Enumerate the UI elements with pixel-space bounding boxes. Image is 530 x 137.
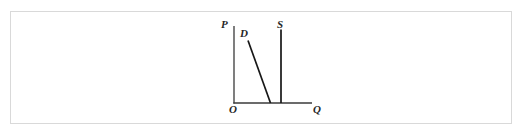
- supply-demand-diagram-canvas: [0, 0, 530, 137]
- demand-curve-label: D: [240, 28, 248, 39]
- figure-root: P D S O Q: [0, 0, 530, 137]
- price-axis-label: P: [221, 19, 228, 30]
- quantity-axis-label: Q: [313, 104, 321, 115]
- origin-label: O: [229, 104, 237, 115]
- supply-curve-label: S: [277, 19, 283, 30]
- demand-curve-line: [248, 41, 271, 104]
